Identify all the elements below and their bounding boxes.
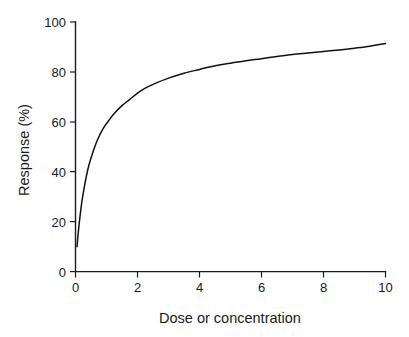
x-tick-label-6: 6 [258, 280, 265, 295]
x-tick-label-2: 2 [134, 280, 141, 295]
axis-spines [76, 22, 386, 272]
x-tick-label-10: 10 [378, 280, 392, 295]
x-tick-labels: 0 2 4 6 8 10 [72, 280, 393, 295]
y-tick-label-100: 100 [44, 15, 66, 30]
y-tick-label-80: 80 [52, 65, 66, 80]
y-tick-label-0: 0 [59, 265, 66, 280]
y-tick-label-20: 20 [52, 215, 66, 230]
dose-response-curve [77, 43, 385, 246]
x-tick-label-4: 4 [196, 280, 203, 295]
x-tick-marks [76, 272, 386, 278]
x-tick-label-0: 0 [72, 280, 79, 295]
chart-figure: 100 80 60 40 20 0 0 [0, 0, 409, 337]
dose-response-chart: 100 80 60 40 20 0 0 [0, 0, 409, 337]
x-tick-label-8: 8 [320, 280, 327, 295]
y-tick-labels: 100 80 60 40 20 0 [44, 15, 66, 280]
y-tick-label-60: 60 [52, 115, 66, 130]
x-axis-title: Dose or concentration [159, 310, 301, 326]
y-axis-title: Response (%) [16, 104, 32, 196]
y-tick-label-40: 40 [52, 165, 66, 180]
